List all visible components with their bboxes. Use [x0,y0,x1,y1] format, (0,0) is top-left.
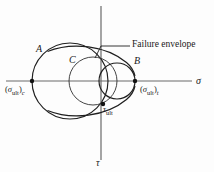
label-sigma-axis: σ [196,76,201,86]
label-tau-ult: τult [103,105,113,116]
sigma-ult-c-mode: c [22,89,25,96]
point-marker-sigma-ult-c [30,79,34,83]
label-point-c: C [69,55,76,65]
label-point-b: B [134,56,140,66]
label-sigma-ult-compression: (σult)c [5,85,25,96]
sigma-ult-c-subscript: ult [12,89,19,96]
label-point-a: A [36,44,42,54]
failure-envelope-upper [48,46,136,76]
tau-ult-subscript: ult [106,109,113,116]
sigma-ult-t-mode: t [157,89,159,96]
label-sigma-ult-tension: (σult)t [140,85,159,96]
failure-envelope-lower [48,86,136,116]
mohr-failure-envelope-figure: A B C Failure envelope σ τ (σult)c (σult… [0,0,214,172]
mohr-diagram-svg [0,0,214,172]
label-failure-envelope: Failure envelope [132,40,196,50]
sigma-ult-t-subscript: ult [147,89,154,96]
label-tau-axis: τ [96,158,100,168]
point-marker-sigma-ult-t [133,79,137,83]
